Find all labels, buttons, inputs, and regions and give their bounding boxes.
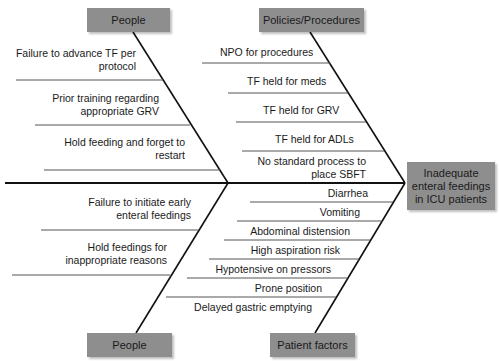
cause-label: Prior training regarding appropriate GRV xyxy=(52,92,159,118)
cause-line: inappropriate reasons xyxy=(65,254,167,267)
cause-line: appropriate GRV xyxy=(52,105,159,118)
cause-label: Failure to initiate early enteral feedin… xyxy=(88,196,191,222)
cause-label: Failure to advance TF per protocol xyxy=(16,47,136,73)
category-box-policies-procedures: Policies/Procedures xyxy=(259,8,364,32)
category-box-people-bottom: People xyxy=(87,333,172,357)
cause-line: High aspiration risk xyxy=(251,244,340,256)
cause-line: restart xyxy=(64,149,185,162)
cause-line: Prior training regarding xyxy=(52,92,159,105)
category-label: People xyxy=(112,339,146,351)
cause-label: No standard process to place SBFT xyxy=(257,155,366,181)
effect-box: Inadequate enteral feedings in ICU patie… xyxy=(407,162,495,210)
cause-line: Failure to advance TF per xyxy=(16,47,136,60)
cause-label: TF held for GRV xyxy=(263,104,339,117)
cause-line: TF held for ADLs xyxy=(275,133,354,145)
cause-label: TF held for meds xyxy=(247,75,326,88)
cause-line: Hold feeding and forget to xyxy=(64,136,185,149)
cause-label: Hold feedings for inappropriate reasons xyxy=(65,241,167,267)
cause-line: Hold feedings for xyxy=(65,241,167,254)
cause-label: Delayed gastric emptying xyxy=(194,301,312,314)
cause-line: Abdominal distension xyxy=(250,225,350,237)
cause-line: NPO for procedures xyxy=(220,46,313,58)
cause-label: TF held for ADLs xyxy=(275,133,354,146)
effect-line: enteral feedings xyxy=(412,180,490,193)
category-box-patient-factors: Patient factors xyxy=(270,333,355,357)
effect-line: in ICU patients xyxy=(415,193,487,206)
cause-label: NPO for procedures xyxy=(220,46,313,59)
cause-label: Vomiting xyxy=(320,206,360,219)
cause-line: Hypotensive on pressors xyxy=(215,263,331,275)
fishbone-diagram: People Policies/Procedures People Patien… xyxy=(0,0,499,361)
cause-label: High aspiration risk xyxy=(251,244,340,257)
cause-line: place SBFT xyxy=(257,168,366,181)
cause-label: Abdominal distension xyxy=(250,225,350,238)
cause-line: Failure to initiate early xyxy=(88,196,191,209)
category-label: Patient factors xyxy=(277,339,347,351)
category-box-people-top: People xyxy=(87,8,170,32)
cause-line: Diarrhea xyxy=(328,187,368,199)
cause-line: enteral feedings xyxy=(88,209,191,222)
cause-line: TF held for meds xyxy=(247,75,326,87)
cause-line: Prone position xyxy=(255,282,322,294)
category-label: People xyxy=(111,14,145,26)
cause-label: Prone position xyxy=(255,282,322,295)
cause-label: Diarrhea xyxy=(328,187,368,200)
cause-line: No standard process to xyxy=(257,155,366,168)
cause-line: protocol xyxy=(16,60,136,73)
cause-line: Delayed gastric emptying xyxy=(194,301,312,313)
category-label: Policies/Procedures xyxy=(263,14,360,26)
cause-line: Vomiting xyxy=(320,206,360,218)
effect-line: Inadequate xyxy=(423,167,478,180)
cause-label: Hypotensive on pressors xyxy=(215,263,331,276)
cause-label: Hold feeding and forget to restart xyxy=(64,136,185,162)
cause-line: TF held for GRV xyxy=(263,104,339,116)
